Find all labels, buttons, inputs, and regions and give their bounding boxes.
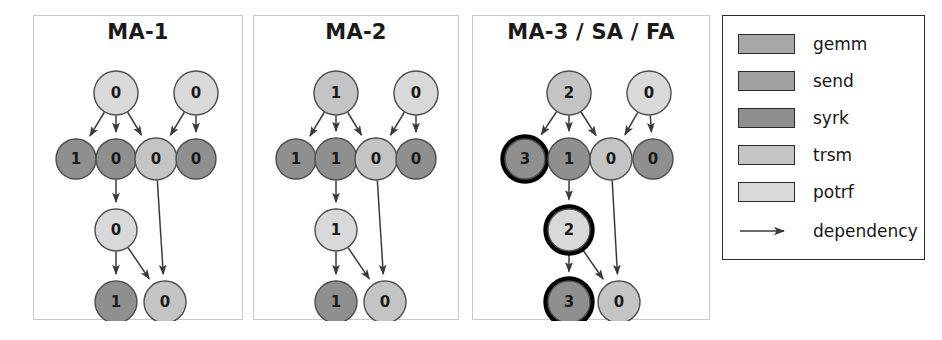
graph-node-label: 2 bbox=[564, 221, 574, 239]
graph-node-label: 3 bbox=[564, 293, 574, 311]
legend-item-syrk: syrk bbox=[738, 108, 849, 128]
dependency-edge bbox=[90, 112, 104, 136]
graph-node: 1 bbox=[315, 281, 357, 321]
legend-panel: gemmsendsyrktrsmpotrfdependency bbox=[722, 15, 925, 260]
graph-node: 1 bbox=[314, 71, 358, 115]
graph-node-label: 1 bbox=[564, 150, 574, 168]
legend-swatch-gemm bbox=[738, 34, 795, 54]
legend-label: gemm bbox=[813, 36, 867, 53]
graph-node-label: 0 bbox=[606, 150, 616, 168]
graph-node-label: 0 bbox=[371, 150, 381, 168]
graph-node-label: 0 bbox=[160, 293, 170, 311]
dependency-edge bbox=[541, 112, 556, 135]
dependency-edge bbox=[581, 248, 603, 279]
legend-label: potrf bbox=[813, 184, 854, 201]
graph-node: 1 bbox=[95, 281, 137, 321]
graph-node-label: 0 bbox=[644, 84, 654, 102]
dependency-edge bbox=[581, 112, 596, 135]
dependency-edge bbox=[391, 112, 405, 135]
legend-swatch-trsm bbox=[738, 145, 795, 165]
graph-node: 0 bbox=[144, 281, 186, 321]
legend-label: trsm bbox=[813, 147, 852, 164]
graph-node-label: 0 bbox=[411, 84, 421, 102]
dependency-graph: 001000010 bbox=[34, 16, 244, 321]
dependency-edge bbox=[612, 180, 617, 274]
dependency-edge bbox=[348, 248, 369, 279]
graph-node: 0 bbox=[590, 138, 632, 180]
dependency-graph: 203100230 bbox=[473, 16, 711, 321]
graph-node-label: 1 bbox=[291, 150, 301, 168]
graph-node: 2 bbox=[547, 71, 591, 115]
legend-item-potrf: potrf bbox=[738, 182, 854, 202]
graph-node: 0 bbox=[96, 139, 136, 179]
dependency-edge bbox=[625, 112, 638, 134]
graph-node-label: 0 bbox=[411, 150, 421, 168]
arrow-right-icon bbox=[738, 221, 795, 241]
graph-node-label: 3 bbox=[520, 150, 530, 168]
graph-node-label: 1 bbox=[71, 150, 81, 168]
dependency-edge bbox=[377, 180, 383, 274]
graph-node: 0 bbox=[94, 71, 138, 115]
graph-node-label: 0 bbox=[191, 150, 201, 168]
graph-node: 0 bbox=[598, 281, 640, 321]
legend-label: syrk bbox=[813, 110, 849, 127]
graph-node-label: 0 bbox=[648, 150, 658, 168]
legend-label: dependency bbox=[813, 223, 918, 240]
graph-node: 1 bbox=[276, 139, 316, 179]
dependency-edge bbox=[348, 112, 362, 135]
dependency-edge bbox=[650, 115, 651, 132]
legend-item-dependency: dependency bbox=[738, 221, 918, 241]
figure-root: MA-1001000010MA-2101100110MA-3 / SA / FA… bbox=[0, 0, 942, 340]
graph-node-label: 1 bbox=[111, 293, 121, 311]
graph-node: 0 bbox=[174, 71, 218, 115]
graph-node-label: 1 bbox=[331, 221, 341, 239]
graph-node: 0 bbox=[176, 139, 216, 179]
legend-swatch-potrf bbox=[738, 182, 795, 202]
graph-node-label: 0 bbox=[151, 150, 161, 168]
graph-panel-ma-2: MA-2101100110 bbox=[253, 15, 459, 320]
graph-node: 1 bbox=[315, 209, 357, 251]
graph-node: 1 bbox=[548, 138, 590, 180]
graph-panel-ma-1: MA-1001000010 bbox=[33, 15, 243, 320]
graph-node-label: 0 bbox=[111, 221, 121, 239]
dependency-edge bbox=[310, 112, 324, 136]
graph-node-label: 0 bbox=[380, 293, 390, 311]
dependency-edge bbox=[157, 180, 163, 274]
graph-panel-ma-3-sa-fa: MA-3 / SA / FA203100230 bbox=[472, 15, 710, 320]
graph-node: 0 bbox=[633, 139, 673, 179]
graph-node: 1 bbox=[315, 138, 357, 180]
dependency-graph: 101100110 bbox=[254, 16, 460, 321]
graph-node-label: 0 bbox=[614, 293, 624, 311]
graph-node: 0 bbox=[355, 138, 397, 180]
graph-node: 0 bbox=[396, 139, 436, 179]
graph-node: 0 bbox=[394, 71, 438, 115]
legend-label: send bbox=[813, 73, 854, 90]
graph-node-label: 2 bbox=[564, 84, 574, 102]
dependency-edge bbox=[128, 112, 142, 135]
graph-node-label: 0 bbox=[111, 84, 121, 102]
graph-node-label: 0 bbox=[191, 84, 201, 102]
graph-node: 2 bbox=[546, 207, 592, 253]
graph-node: 0 bbox=[627, 71, 671, 115]
dependency-edge bbox=[171, 112, 185, 135]
legend-swatch-syrk bbox=[738, 108, 795, 128]
legend-item-gemm: gemm bbox=[738, 34, 867, 54]
legend-swatch-send bbox=[738, 71, 795, 91]
graph-node: 0 bbox=[135, 138, 177, 180]
graph-node: 0 bbox=[364, 281, 406, 321]
legend-item-trsm: trsm bbox=[738, 145, 852, 165]
graph-node: 1 bbox=[56, 139, 96, 179]
graph-node: 0 bbox=[95, 209, 137, 251]
graph-node-label: 1 bbox=[331, 150, 341, 168]
graph-node: 3 bbox=[503, 137, 547, 181]
graph-node-label: 1 bbox=[331, 84, 341, 102]
graph-node-label: 0 bbox=[111, 150, 121, 168]
dependency-edge bbox=[128, 248, 149, 279]
graph-node-label: 1 bbox=[331, 293, 341, 311]
graph-node: 3 bbox=[546, 279, 592, 321]
legend-item-send: send bbox=[738, 71, 854, 91]
